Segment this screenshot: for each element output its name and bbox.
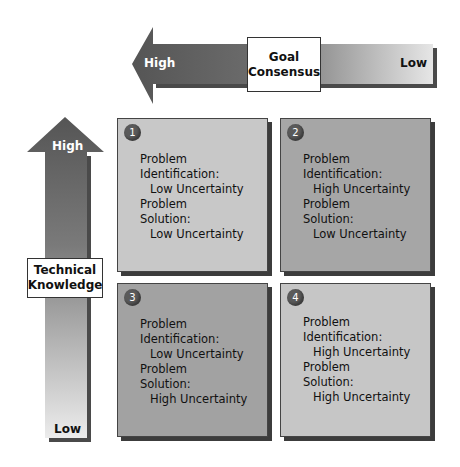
quadrant-text: Problem Identification: High Uncertainty… <box>303 152 410 242</box>
problem-label: Problem <box>303 360 410 375</box>
identification-label: Identification: <box>303 330 410 345</box>
quadrant-2: 2 Problem Identification: High Uncertain… <box>280 118 431 272</box>
problem-label: Problem <box>140 317 247 332</box>
solution-label: Solution: <box>303 375 410 390</box>
quadrant-number-badge: 1 <box>124 124 141 141</box>
identification-value: Low Uncertainty <box>140 347 247 362</box>
problem-label: Problem <box>140 152 244 167</box>
technical-knowledge-line1: Technical <box>34 263 96 278</box>
identification-label: Identification: <box>140 167 244 182</box>
technical-knowledge-line2: Knowledge <box>28 278 103 293</box>
identification-value: Low Uncertainty <box>140 182 244 197</box>
quadrant-number-badge: 4 <box>287 289 304 306</box>
technical-knowledge-title: Technical Knowledge <box>27 258 103 298</box>
problem-label: Problem <box>140 362 247 377</box>
goal-consensus-title: Goal Consensus <box>247 37 321 92</box>
technical-high-label: High <box>52 139 83 153</box>
identification-value: High Uncertainty <box>303 345 410 360</box>
goal-consensus-line2: Consensus <box>248 65 320 80</box>
quadrant-number-badge: 2 <box>287 124 304 141</box>
goal-low-label: Low <box>400 56 427 70</box>
problem-label: Problem <box>303 315 410 330</box>
identification-label: Identification: <box>303 167 410 182</box>
solution-label: Solution: <box>140 377 247 392</box>
quadrant-number-badge: 3 <box>124 289 141 306</box>
identification-value: High Uncertainty <box>303 182 410 197</box>
quadrant-text: Problem Identification: Low Uncertainty … <box>140 317 247 407</box>
quadrant-1: 1 Problem Identification: Low Uncertaint… <box>117 118 268 272</box>
quadrant-4: 4 Problem Identification: High Uncertain… <box>280 283 431 437</box>
quadrant-text: Problem Identification: Low Uncertainty … <box>140 152 244 242</box>
solution-value: Low Uncertainty <box>140 227 244 242</box>
quadrant-text: Problem Identification: High Uncertainty… <box>303 315 410 405</box>
solution-label: Solution: <box>140 212 244 227</box>
problem-label: Problem <box>140 197 244 212</box>
identification-label: Identification: <box>140 332 247 347</box>
technical-low-label: Low <box>54 422 81 436</box>
solution-value: High Uncertainty <box>303 390 410 405</box>
solution-value: High Uncertainty <box>140 392 247 407</box>
solution-value: Low Uncertainty <box>303 227 410 242</box>
quadrant-3: 3 Problem Identification: Low Uncertaint… <box>117 283 268 437</box>
goal-high-label: High <box>144 56 175 70</box>
problem-label: Problem <box>303 152 410 167</box>
problem-label: Problem <box>303 197 410 212</box>
solution-label: Solution: <box>303 212 410 227</box>
goal-consensus-line1: Goal <box>269 50 299 65</box>
